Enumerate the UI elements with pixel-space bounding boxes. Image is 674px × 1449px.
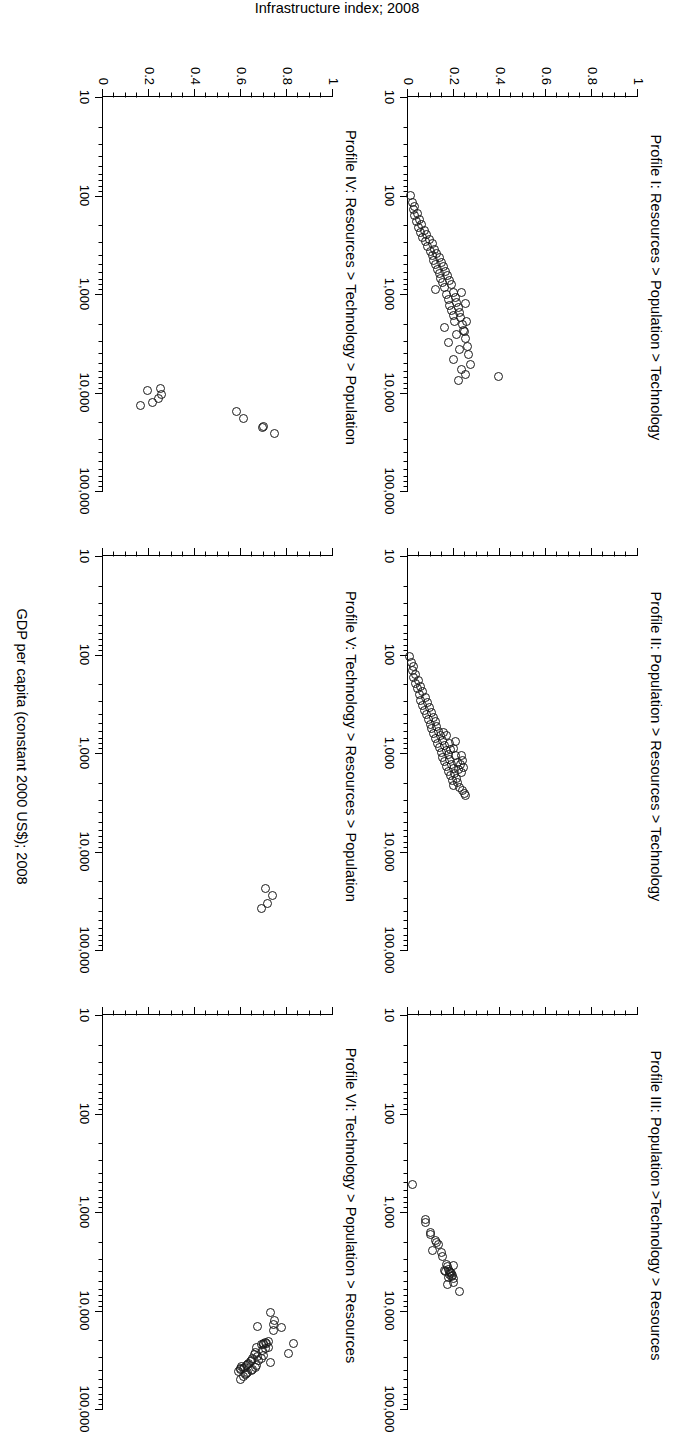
y-tick-minor — [442, 1011, 443, 1016]
x-tick-minor — [404, 1104, 409, 1105]
x-tick-minor — [404, 469, 409, 470]
x-tick-minor — [404, 1160, 409, 1161]
x-tick-minor — [99, 898, 104, 899]
x-tick-minor — [99, 847, 104, 848]
x-tick-minor — [404, 723, 409, 724]
y-tick-minor — [419, 552, 420, 557]
x-tick-label: 1,000 — [77, 278, 92, 311]
y-tick-label: 0.2 — [142, 67, 157, 85]
x-tick-minor — [99, 1242, 104, 1243]
x-tick-minor — [404, 127, 409, 128]
x-tick-minor — [99, 174, 104, 175]
x-tick-label: 100 — [382, 185, 397, 207]
y-tick-minor — [206, 552, 207, 557]
y-tick-label: 0.8 — [585, 67, 600, 85]
y-tick-minor — [430, 93, 431, 98]
x-tick-minor — [404, 363, 409, 364]
x-tick-label: 1,000 — [382, 737, 397, 770]
x-tick-minor — [99, 881, 104, 882]
y-tick-minor — [580, 93, 581, 98]
y-tick-label: 0.2 — [447, 67, 462, 85]
x-tick-minor — [99, 1306, 104, 1307]
x-tick-minor — [404, 289, 409, 290]
panel-profile-4: Profile IV: Resources > Technology > Pop… — [58, 58, 363, 517]
y-tick-major — [194, 548, 195, 556]
plot-area-profile-3: 101001,00010,000100,000 — [407, 1014, 638, 1409]
x-tick-minor — [404, 800, 409, 801]
data-point — [258, 423, 267, 432]
x-tick-minor — [404, 1109, 409, 1110]
y-tick-major — [637, 89, 638, 97]
x-tick-minor — [99, 289, 104, 290]
x-tick-minor — [404, 1379, 409, 1380]
x-tick-label: 10 — [77, 1008, 92, 1022]
y-tick-major — [148, 89, 149, 97]
x-tick-label: 100,000 — [77, 927, 92, 974]
y-tick-minor — [511, 1011, 512, 1016]
x-tick-minor — [99, 1190, 104, 1191]
y-tick-minor — [614, 1011, 615, 1016]
x-tick-minor — [404, 284, 409, 285]
x-tick-minor — [99, 1173, 104, 1174]
x-tick-minor — [404, 945, 409, 946]
x-tick-minor — [404, 225, 409, 226]
data-point — [440, 323, 449, 332]
y-tick-minor — [125, 1011, 126, 1016]
y-tick-minor — [275, 1011, 276, 1016]
x-tick-major — [95, 196, 103, 197]
y-tick-minor — [171, 552, 172, 557]
y-tick-minor — [125, 552, 126, 557]
y-tick-minor — [430, 552, 431, 557]
x-tick-minor — [99, 255, 104, 256]
x-tick-minor — [404, 1387, 409, 1388]
y-tick-minor — [160, 552, 161, 557]
data-point — [449, 1261, 458, 1270]
x-tick-label: 100 — [382, 1103, 397, 1125]
x-tick-minor — [99, 272, 104, 273]
x-tick-major — [400, 1311, 408, 1312]
x-tick-minor — [99, 684, 104, 685]
x-tick-minor — [99, 645, 104, 646]
x-tick-minor — [99, 1387, 104, 1388]
x-tick-minor — [99, 603, 104, 604]
data-point — [443, 1280, 452, 1289]
panel-title-profile-6: Profile VI: Technology > Population > Re… — [343, 976, 359, 1435]
x-tick-major — [95, 1409, 103, 1410]
data-point — [148, 398, 157, 407]
x-tick-minor — [404, 836, 409, 837]
data-point — [466, 360, 475, 369]
x-tick-major — [95, 393, 103, 394]
y-tick-major — [453, 548, 454, 556]
data-point — [464, 350, 473, 359]
x-tick-minor — [99, 940, 104, 941]
y-tick-major — [332, 89, 333, 97]
y-tick-major — [591, 548, 592, 556]
x-tick-label: 10,000 — [77, 1291, 92, 1331]
x-tick-minor — [99, 928, 104, 929]
x-tick-minor — [99, 615, 104, 616]
panel-title-profile-2: Profile II: Population > Resources > Tec… — [648, 517, 664, 976]
x-tick-minor — [404, 144, 409, 145]
y-tick-minor — [476, 1011, 477, 1016]
y-tick-label: 0.8 — [280, 67, 295, 85]
data-point — [237, 1375, 246, 1384]
x-tick-minor — [99, 144, 104, 145]
x-tick-label: 100,000 — [77, 468, 92, 515]
y-tick-minor — [603, 1011, 604, 1016]
x-tick-label: 100,000 — [382, 1386, 397, 1433]
x-tick-minor — [404, 1207, 409, 1208]
y-tick-minor — [206, 1011, 207, 1016]
x-tick-minor — [99, 650, 104, 651]
x-tick-minor — [404, 264, 409, 265]
data-point — [454, 376, 463, 385]
y-tick-major — [148, 1007, 149, 1015]
x-tick-major — [400, 1015, 408, 1016]
y-tick-minor — [465, 93, 466, 98]
x-tick-minor — [404, 812, 409, 813]
x-tick-minor — [99, 1281, 104, 1282]
x-tick-major — [400, 294, 408, 295]
y-tick-minor — [614, 93, 615, 98]
data-point — [457, 288, 466, 297]
data-point — [428, 1246, 437, 1255]
x-tick-minor — [99, 156, 104, 157]
